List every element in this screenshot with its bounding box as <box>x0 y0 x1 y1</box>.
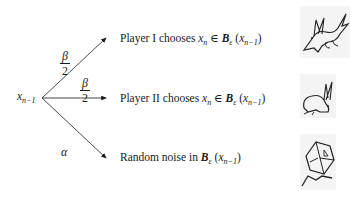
prob-player2: β 2 <box>80 77 90 104</box>
die-icon <box>300 134 336 190</box>
outcome-player2: Player II chooses xn ∈ Bε (xn−1) <box>120 91 265 107</box>
outcome-noise: Random noise in Bε (xn−1) <box>120 151 241 166</box>
edge-player1 <box>42 38 106 98</box>
outcome-player1: Player I chooses xn ∈ Bε (xn−1) <box>120 31 262 47</box>
root-sub: n−1 <box>22 96 35 105</box>
fox-icon <box>300 6 350 58</box>
rabbit-icon <box>300 74 336 118</box>
prob-player1: β 2 <box>60 50 70 77</box>
prob-noise: α <box>61 145 67 160</box>
root-node: xn−1 <box>17 90 36 105</box>
edge-noise <box>42 98 106 158</box>
